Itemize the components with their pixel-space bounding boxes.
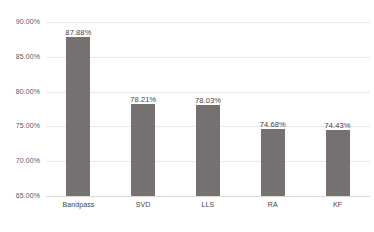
bar-chart: 90.00% 85.00% 80.00% 75.00% 70.00% 65.00…	[0, 0, 374, 232]
bar-ra[interactable]	[261, 129, 285, 196]
y-axis: 90.00% 85.00% 80.00% 75.00% 70.00% 65.00…	[0, 0, 44, 232]
bar-label-kf: 74.43%	[325, 121, 351, 130]
x-tick-label-ra: RA	[268, 200, 278, 210]
x-tick-label-bandpass: Bandpass	[62, 200, 94, 210]
bar-label-bandpass: 87.88%	[65, 28, 91, 37]
bar-slot-lls: 78.03%	[176, 22, 241, 196]
bar-label-svd: 78.21%	[130, 95, 156, 104]
y-tick-label-90: 90.00%	[0, 18, 40, 26]
plot-area: 87.88% 78.21% 78.03% 74.68% 74.43%	[46, 22, 370, 196]
y-tick-label-80: 80.00%	[0, 88, 40, 96]
bar-slot-kf: 74.43%	[305, 22, 370, 196]
x-tick-label-lls: LLS	[202, 200, 215, 210]
x-axis: Bandpass SVD LLS RA KF	[46, 200, 370, 214]
bar-label-ra: 74.68%	[260, 120, 286, 129]
bar-label-lls: 78.03%	[195, 96, 221, 105]
bar-kf[interactable]	[326, 130, 350, 196]
bar-svd[interactable]	[131, 104, 155, 196]
y-tick-label-85: 85.00%	[0, 53, 40, 61]
bars-layer: 87.88% 78.21% 78.03% 74.68% 74.43%	[46, 22, 370, 196]
bar-slot-bandpass: 87.88%	[46, 22, 111, 196]
bar-slot-ra: 74.68%	[240, 22, 305, 196]
x-tick-label-svd: SVD	[136, 200, 151, 210]
x-tick-label-kf: KF	[333, 200, 342, 210]
bar-slot-svd: 78.21%	[111, 22, 176, 196]
gridline-65-baseline	[46, 196, 370, 197]
bar-bandpass[interactable]	[66, 37, 90, 196]
y-tick-label-70: 70.00%	[0, 157, 40, 165]
y-tick-label-65: 65.00%	[0, 192, 40, 200]
y-tick-label-75: 75.00%	[0, 122, 40, 130]
bar-lls[interactable]	[196, 105, 220, 196]
